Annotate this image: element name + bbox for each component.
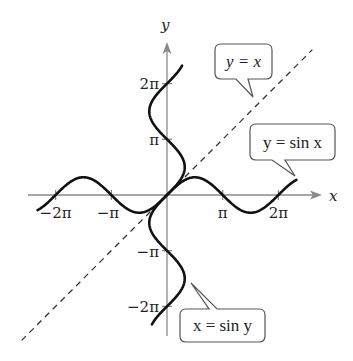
y-tick-label: −π [137,243,160,261]
callout-label: y = x [224,52,262,71]
callout-label: y = sin x [263,133,323,152]
callout-y-equals-x: y = x [215,44,272,97]
y-tick-label: 2π [140,75,160,93]
figure: x y −2π −π π 2π 2π π −π −2π y = x y = si… [0,0,353,361]
callout-label: x = sin y [193,316,253,335]
callout-x-sin-y: x = sin y [180,283,265,342]
x-tick-label: 2π [269,204,289,222]
x-tick-label: π [218,204,228,222]
callout-y-sin-x: y = sin x [250,124,335,176]
x-axis-label: x [329,187,338,205]
y-tick-label: −2π [127,298,159,316]
x-tick-label: −2π [40,204,72,222]
y-axis-label: y [160,16,170,34]
x-tick-label: −π [97,204,120,222]
y-tick-label: π [149,131,159,149]
